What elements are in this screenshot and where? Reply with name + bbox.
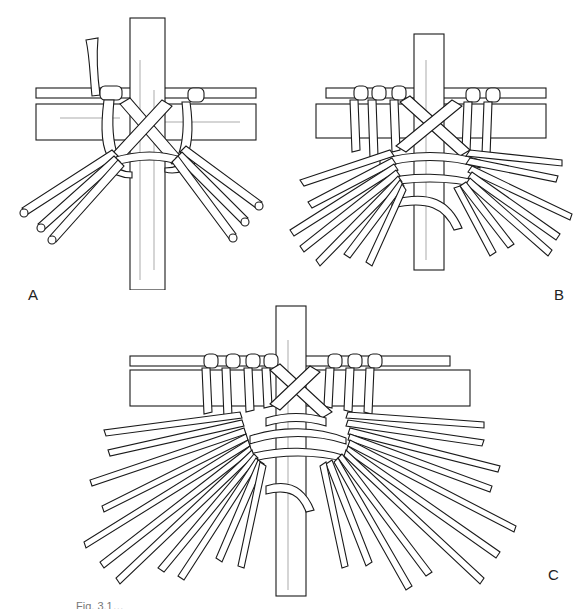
panel-b [280, 0, 586, 300]
twining-illustration-c [70, 300, 530, 600]
panel-label-b: B [554, 286, 564, 303]
spokes-left [290, 150, 406, 266]
spokes-left [20, 150, 124, 244]
panel-a [0, 0, 290, 290]
panel-label-a: A [28, 286, 38, 303]
twining-illustration-a [0, 0, 290, 290]
panel-c [70, 300, 530, 600]
spokes-right [454, 150, 572, 256]
spokes-right [320, 412, 516, 590]
twining-illustration-b [280, 0, 586, 300]
spokes-right [172, 146, 263, 242]
spokes-left [84, 412, 266, 584]
figure-caption: Fig. 3.1… [76, 600, 124, 609]
panel-label-c: C [548, 566, 559, 583]
